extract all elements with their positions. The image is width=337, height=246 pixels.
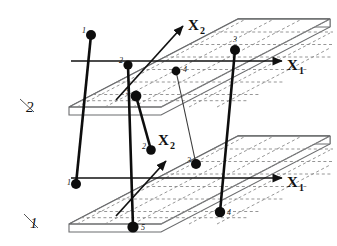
lower-x1-axis-label-sub: 1 [299, 182, 304, 193]
lower-plane-label: 1 [30, 215, 38, 231]
upper-x1-axis-label-sub: 1 [299, 65, 304, 76]
node-upper-4-label: 4 [183, 65, 187, 74]
node-upper-2[interactable] [123, 60, 132, 69]
node-upper-1[interactable] [86, 30, 96, 40]
lower-x1-axis-label-text: X [287, 174, 298, 190]
node-lower-4[interactable] [215, 207, 225, 217]
upper-x2-axis-label-sub: 2 [200, 25, 205, 36]
upper-x1-axis-label: X 1 [287, 57, 304, 76]
node-upper-4[interactable] [172, 67, 181, 76]
node-lower-3-label: 3 [186, 156, 191, 165]
node-upper-3[interactable] [230, 45, 240, 55]
node-upper-3-label: 3 [232, 35, 237, 44]
node-upper-5-label: 5 [126, 87, 130, 96]
node-upper-1-label: 1 [82, 26, 86, 35]
lower-x2-axis-label: X 2 [158, 132, 175, 151]
node-lower-2-label: 2 [142, 142, 146, 151]
upper-x2-axis-label-text: X [188, 17, 199, 33]
node-lower-5[interactable] [127, 221, 138, 232]
node-lower-5-label: 5 [141, 223, 145, 232]
two-layer-network-diagram: 1 2 3 4 5 1 2 3 4 5 X 1 X 2 X 1 X [0, 0, 337, 246]
upper-plane-label: 2 [26, 99, 34, 115]
node-upper-2-label: 2 [119, 56, 123, 65]
lower-x1-axis-label: X 1 [287, 174, 304, 193]
node-lower-3[interactable] [191, 159, 201, 169]
lower-x2-axis-label-text: X [158, 132, 169, 148]
node-lower-4-label: 4 [227, 208, 231, 217]
node-lower-2[interactable] [146, 145, 156, 155]
upper-x2-axis-label: X 2 [188, 17, 205, 36]
upper-x1-axis-label-text: X [287, 57, 298, 73]
node-lower-1-label: 1 [67, 178, 71, 187]
lower-x2-axis-label-sub: 2 [170, 140, 175, 151]
node-upper-5[interactable] [131, 91, 142, 102]
node-lower-1[interactable] [71, 179, 81, 189]
figure-canvas: 1 2 3 4 5 1 2 3 4 5 X 1 X 2 X 1 X [0, 0, 337, 246]
